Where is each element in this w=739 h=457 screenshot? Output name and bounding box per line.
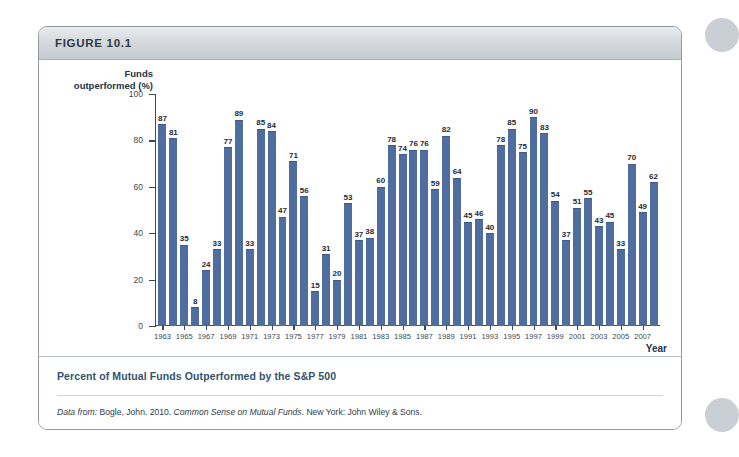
y-axis-tick [149,326,156,327]
y-axis-tick-label: 40 [103,228,143,238]
figure-source: Data from: Bogle, John. 2010. Common Sen… [57,395,663,417]
bar [551,201,559,326]
bar [409,150,417,326]
x-axis-tick [621,325,622,330]
bar-value-label: 37 [354,230,363,239]
x-axis-tick [381,325,382,330]
bar-value-label: 43 [595,216,604,225]
bar-value-label: 47 [278,206,287,215]
bar-value-label: 24 [202,260,211,269]
bar-value-label: 82 [442,125,451,134]
y-axis-tick-label: 80 [103,135,143,145]
bar-value-label: 49 [638,202,647,211]
bar [333,280,341,326]
bar [202,270,210,326]
x-axis-tick [315,325,316,330]
bar [191,307,199,326]
figure-caption: Percent of Mutual Funds Outperformed by … [57,370,663,382]
x-axis-tick [555,325,556,330]
y-axis-tick-label: 100 [103,89,143,99]
bar [464,222,472,326]
bar [235,120,243,326]
bar-value-label: 76 [420,139,429,148]
bar [213,249,221,326]
bar-value-label: 46 [474,209,483,218]
bar [388,145,396,326]
x-axis-tick [184,325,185,330]
bar [268,131,276,326]
bar-value-label: 76 [409,139,418,148]
bar-value-label: 83 [540,123,549,132]
x-axis-tick [293,325,294,330]
bar [595,226,603,326]
y-axis-tick-label: 20 [103,275,143,285]
bar [279,217,287,326]
source-prefix: Data from: [57,407,97,417]
bar-value-label: 8 [193,297,197,306]
x-axis-tick [512,325,513,330]
figure-header: FIGURE 10.1 [39,27,681,60]
bar [257,129,265,326]
page-corner-crescent-top [705,18,739,52]
bar-value-label: 55 [584,188,593,197]
y-axis-tick [149,140,156,141]
bar [639,212,647,326]
x-axis-tick [534,325,535,330]
bar [158,124,166,326]
page-edge-decoration [691,0,725,457]
bar-value-label: 62 [649,172,658,181]
bar-value-label: 31 [322,244,331,253]
bar [617,249,625,326]
x-axis-tick [206,325,207,330]
bar [300,196,308,326]
bar-value-label: 45 [464,211,473,220]
x-axis-tick [359,325,360,330]
y-axis-tick [149,280,156,281]
bar-value-label: 78 [496,135,505,144]
bar-value-label: 85 [256,118,265,127]
bar-value-label: 90 [529,107,538,116]
bar [453,178,461,326]
x-axis-tick-label: 2007 [626,332,660,341]
bar-value-label: 84 [267,121,276,130]
x-axis-tick [228,325,229,330]
bar-value-label: 60 [376,176,385,185]
y-axis-tick [149,94,156,95]
bar-value-label: 54 [551,190,560,199]
x-axis-tick [250,325,251,330]
bar-value-label: 33 [213,239,222,248]
bar [497,145,505,326]
x-axis-tick [337,325,338,330]
bar [475,219,483,326]
bar-value-label: 35 [180,234,189,243]
bar [322,254,330,326]
x-axis-tick [446,325,447,330]
bar [540,133,548,326]
bar-value-label: 74 [398,144,407,153]
x-axis-tick [162,325,163,330]
y-axis-tick-label: 60 [103,182,143,192]
bar [562,240,570,326]
bar-value-label: 15 [311,281,320,290]
figure-caption-block: Percent of Mutual Funds Outperformed by … [39,356,681,429]
bar [650,182,658,326]
bar [442,136,450,326]
bar [224,147,232,326]
bar [366,238,374,326]
bar-value-label: 77 [223,137,232,146]
figure-container: FIGURE 10.1 Funds outperformed (%) 02040… [38,26,682,430]
bar-value-label: 71 [289,151,298,160]
source-author: Bogle, John. 2010. [100,407,172,417]
bar-value-label: 51 [573,197,582,206]
bar [344,203,352,326]
x-axis-tick [272,325,273,330]
x-axis-title: Year [646,343,667,354]
source-title: Common Sense on Mutual Funds [174,407,302,417]
bar-value-label: 40 [485,223,494,232]
bar [519,152,527,326]
bar-value-label: 59 [431,179,440,188]
x-axis-tick [490,325,491,330]
y-axis-tick [149,233,156,234]
bar [606,222,614,326]
bar-value-label: 53 [344,193,353,202]
